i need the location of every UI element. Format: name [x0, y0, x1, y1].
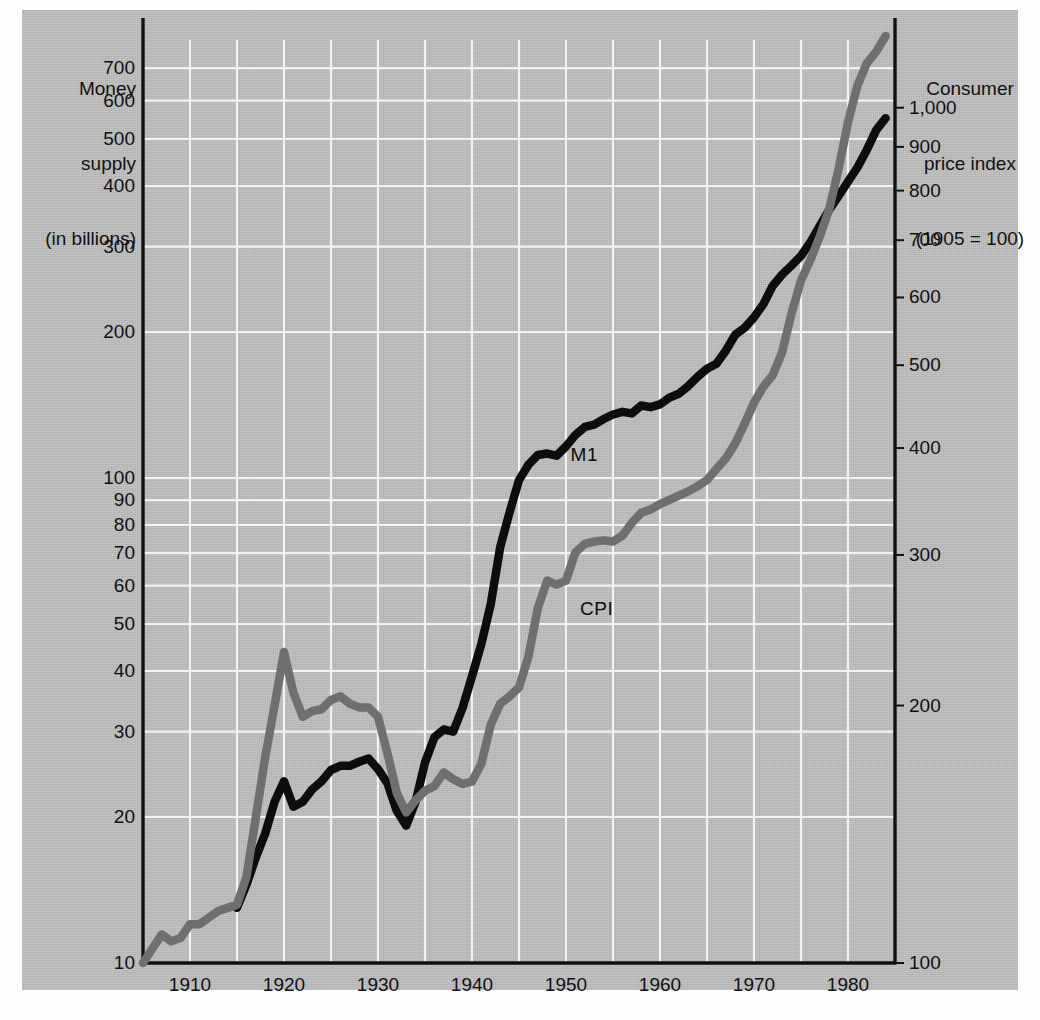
right-axis-tick-label: 700: [909, 229, 989, 251]
left-axis-tick-label: 80: [65, 514, 135, 536]
left-axis-tick-label: 90: [65, 489, 135, 511]
figure-page: Money supply (in billions) Consumer pric…: [0, 0, 1040, 1020]
left-axis-tick-label: 40: [65, 660, 135, 682]
x-axis-tick-label: 1980: [808, 974, 888, 996]
x-axis-tick-label: 1910: [150, 974, 230, 996]
left-axis-tick-label: 20: [65, 806, 135, 828]
right-axis-tick-label: 100: [909, 952, 989, 974]
left-axis-tick-label: 70: [65, 542, 135, 564]
left-axis-tick-label: 10: [65, 952, 135, 974]
right-axis-tick-label: 1,000: [909, 97, 989, 119]
left-axis-tick-label: 300: [65, 236, 135, 258]
left-axis-tick-label: 600: [65, 90, 135, 112]
series-label-cpi: CPI: [580, 598, 613, 620]
right-axis-tick-label: 200: [909, 695, 989, 717]
x-axis-tick-label: 1970: [714, 974, 794, 996]
left-axis-tick-label: 500: [65, 128, 135, 150]
left-axis-tick-label: 400: [65, 175, 135, 197]
series-label-m1: M1: [571, 444, 598, 466]
right-axis-tick-label: 300: [909, 544, 989, 566]
left-axis-tick-label: 100: [65, 467, 135, 489]
right-axis-tick-label: 500: [909, 354, 989, 376]
series-line-m1: [237, 118, 886, 908]
x-axis-tick-label: 1920: [244, 974, 324, 996]
left-axis-tick-label: 200: [65, 321, 135, 343]
x-axis-tick-label: 1930: [338, 974, 418, 996]
right-axis-tick-label: 900: [909, 136, 989, 158]
left-axis-tick-label: 60: [65, 575, 135, 597]
right-axis-tick-label: 400: [909, 437, 989, 459]
left-axis-tick-label: 30: [65, 721, 135, 743]
x-axis-tick-label: 1950: [526, 974, 606, 996]
left-axis-tick-label: 50: [65, 613, 135, 635]
x-axis-tick-label: 1940: [432, 974, 512, 996]
right-axis-tick-label: 600: [909, 286, 989, 308]
left-axis-tick-label: 700: [65, 57, 135, 79]
x-axis-tick-label: 1960: [620, 974, 700, 996]
chart-plot-area: [0, 0, 1040, 1020]
right-axis-tick-label: 800: [909, 180, 989, 202]
